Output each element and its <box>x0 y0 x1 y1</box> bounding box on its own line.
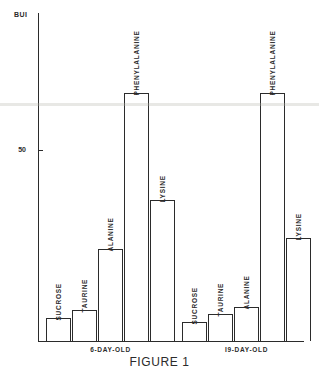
bar-label-lysine: LYSINE <box>295 213 302 240</box>
figure-1: BUI 50 SUCROSETAURINEALANINEPHENYLALANIN… <box>0 0 319 379</box>
bar-6-day-old-taurine <box>72 310 97 341</box>
bar-6-day-old-alanine <box>98 249 123 341</box>
bar-19-day-old-taurine <box>208 314 233 341</box>
bar-6-day-old-phenylalanine <box>124 93 149 341</box>
bar-label-alanine: ALANINE <box>107 218 114 252</box>
bar-chart-plot: BUI 50 SUCROSETAURINEALANINEPHENYLALANIN… <box>0 0 319 348</box>
group-label-6-day-old: 6-DAY-OLD <box>46 346 175 353</box>
bar-label-sucrose: SUCROSE <box>191 287 198 324</box>
bar-19-day-old-sucrose <box>182 322 207 341</box>
bar-6-day-old-sucrose <box>46 318 71 341</box>
bar-label-phenylalanine: PHENYLALANINE <box>269 30 276 95</box>
bar-label-taurine: TAURINE <box>217 283 224 317</box>
figure-caption: FIGURE 1 <box>0 355 319 369</box>
bar-label-alanine: ALANINE <box>243 275 250 309</box>
bar-19-day-old-phenylalanine <box>260 93 285 341</box>
bar-6-day-old-lysine <box>150 200 175 341</box>
bar-19-day-old-alanine <box>234 307 259 341</box>
bar-label-taurine: TAURINE <box>81 279 88 313</box>
bar-19-day-old-lysine <box>286 238 311 341</box>
bar-label-phenylalanine: PHENYLALANINE <box>133 30 140 95</box>
bars-layer: SUCROSETAURINEALANINEPHENYLALANINELYSINE… <box>0 0 319 348</box>
bar-label-sucrose: SUCROSE <box>55 283 62 320</box>
bar-label-lysine: LYSINE <box>159 175 166 202</box>
group-label-19-day-old: I9-DAY-OLD <box>182 346 311 353</box>
